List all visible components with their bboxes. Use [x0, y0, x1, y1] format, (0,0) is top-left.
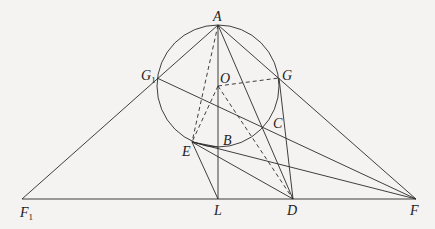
- segment-A-F: [218, 25, 416, 199]
- segment-E-D: [192, 142, 293, 199]
- geometry-diagram: A G1 O G C B E L D F F1: [0, 0, 435, 229]
- label-G: G: [282, 68, 292, 83]
- segment-E-L: [192, 142, 218, 199]
- label-D: D: [286, 203, 297, 218]
- segment-G1-F: [157, 78, 416, 199]
- label-B: B: [223, 133, 232, 148]
- label-C: C: [273, 116, 283, 131]
- label-L: L: [213, 203, 222, 218]
- segment-F1-A: [22, 25, 218, 199]
- point-labels: A G1 O G C B E L D F F1: [19, 9, 419, 222]
- label-G1: G1: [141, 68, 156, 85]
- label-A: A: [212, 9, 222, 24]
- label-F: F: [409, 203, 419, 218]
- segment-A-E: [192, 25, 218, 142]
- label-E: E: [181, 144, 191, 159]
- segment-O-E: [192, 86, 218, 142]
- label-O: O: [220, 71, 230, 86]
- dashed-segments: [192, 25, 293, 199]
- solid-segments: [22, 25, 416, 199]
- segment-E-F: [192, 142, 416, 199]
- diagram-svg: A G1 O G C B E L D F F1: [0, 0, 435, 229]
- label-F1: F1: [19, 205, 33, 222]
